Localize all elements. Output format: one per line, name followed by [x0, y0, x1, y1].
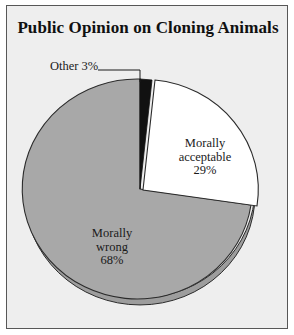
slice-label-morally-acceptable: Morally acceptable 29% [157, 137, 253, 178]
acceptable-label-value: 29% [157, 164, 253, 178]
acceptable-label-line1: Morally [157, 137, 253, 151]
slice-label-morally-wrong: Morally wrong 68% [57, 227, 167, 268]
wrong-label-value: 68% [57, 254, 167, 268]
wrong-label-line2: wrong [57, 241, 167, 255]
chart-frame: Public Opinion on Cloning Animals Other … [6, 5, 288, 329]
wrong-label-line1: Morally [57, 227, 167, 241]
other-label-text: Other 3% [50, 60, 98, 74]
slice-label-other: Other 3% [50, 60, 98, 74]
acceptable-label-line2: acceptable [157, 151, 253, 165]
